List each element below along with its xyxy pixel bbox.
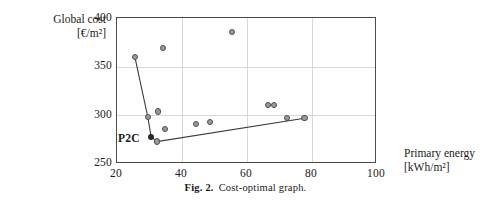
figure-caption-label: Fig. 2. [185, 182, 214, 193]
figure-caption: Fig. 2.Cost-optimal graph. [0, 182, 491, 193]
figure-cost-optimal-graph: Global cost [€/m²] Primary energy [kWh/m… [0, 0, 491, 203]
annotation-p2c: P2C [118, 132, 140, 144]
figure-caption-text: Cost-optimal graph. [219, 182, 307, 193]
cost-optimal-curve [0, 0, 491, 203]
